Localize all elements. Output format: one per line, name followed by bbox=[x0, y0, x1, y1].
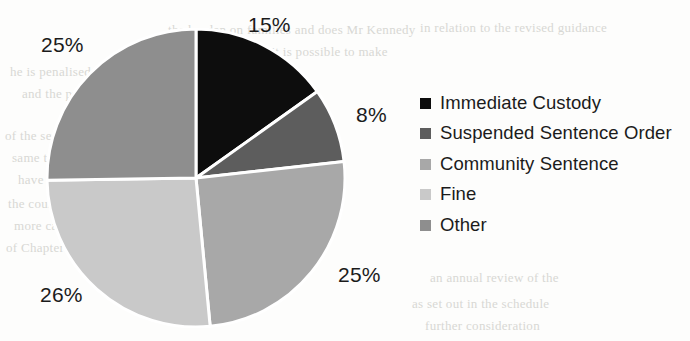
legend-item-label: Immediate Custody bbox=[440, 92, 601, 113]
legend-item-label: Fine bbox=[440, 183, 476, 204]
pie-slice bbox=[196, 161, 345, 326]
pie-percentage-label: 26% bbox=[40, 283, 83, 307]
pie-percentage-label: 25% bbox=[41, 33, 84, 57]
pie-chart-graphic bbox=[46, 28, 346, 328]
bleed-text-line: in relation to the revised guidance bbox=[420, 20, 607, 36]
pie-chart-figure: the burden on families and does Mr Kenne… bbox=[0, 0, 690, 341]
pie-percentage-label: 25% bbox=[338, 263, 381, 287]
legend-item[interactable]: Immediate Custody bbox=[420, 92, 675, 113]
legend-color-swatch-icon bbox=[420, 128, 431, 139]
pie-percentage-label: 8% bbox=[356, 103, 387, 127]
chart-legend: Immediate CustodySuspended Sentence Orde… bbox=[420, 92, 675, 244]
legend-item[interactable]: Suspended Sentence Order bbox=[420, 122, 675, 143]
legend-color-swatch-icon bbox=[420, 220, 431, 231]
pie-percentage-label: 15% bbox=[248, 13, 291, 37]
legend-color-swatch-icon bbox=[420, 159, 431, 170]
bleed-text-line: an annual review of the bbox=[430, 270, 559, 286]
bleed-text-line: further consideration bbox=[425, 318, 540, 334]
legend-item[interactable]: Community Sentence bbox=[420, 153, 675, 174]
bleed-text-line: as set out in the schedule bbox=[412, 296, 549, 312]
legend-item-label: Other bbox=[440, 214, 487, 235]
pie-svg bbox=[46, 28, 346, 328]
legend-item[interactable]: Other bbox=[420, 214, 675, 235]
legend-item-label: Community Sentence bbox=[440, 153, 619, 174]
legend-item-label: Suspended Sentence Order bbox=[440, 122, 672, 143]
legend-color-swatch-icon bbox=[420, 98, 431, 109]
pie-slices bbox=[47, 29, 345, 327]
legend-item[interactable]: Fine bbox=[420, 183, 675, 204]
legend-color-swatch-icon bbox=[420, 189, 431, 200]
